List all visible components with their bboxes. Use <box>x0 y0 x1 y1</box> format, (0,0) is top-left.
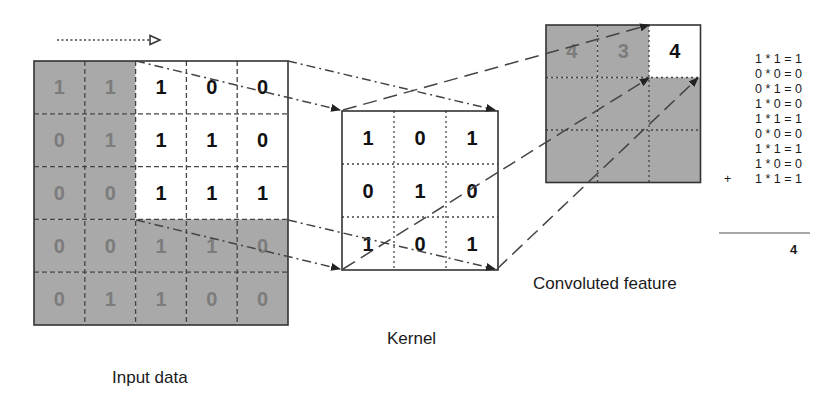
calculation-result: 4 <box>790 242 797 257</box>
calculation-line: 1 * 0 = 0 <box>738 97 802 112</box>
cell-value: 1 <box>105 76 116 98</box>
cell-value: 4 <box>669 40 681 62</box>
calculation-line: 1 * 1 = 1 <box>738 142 802 157</box>
cell-value: 0 <box>362 180 373 202</box>
cell-value: 1 <box>105 129 116 151</box>
cell-value: 4 <box>566 40 578 62</box>
cell-value: 0 <box>105 235 116 257</box>
input-grid: 1110001110001110011001100 <box>34 61 288 325</box>
cell-value: 0 <box>206 288 217 310</box>
cell-value: 1 <box>155 288 166 310</box>
grid-cell <box>649 130 701 183</box>
plus-operator: + <box>724 172 731 187</box>
cell-value: 1 <box>466 233 477 255</box>
kernel-label: Kernel <box>387 329 436 349</box>
cell-value: 3 <box>618 40 629 62</box>
calculation-line: 1 * 1 = 1+ <box>738 172 802 187</box>
calculation-line: 1 * 0 = 0 <box>738 157 802 172</box>
calculation-line: 0 * 0 = 0 <box>738 67 802 82</box>
output-grid: 434 <box>546 25 701 183</box>
cell-value: 1 <box>466 127 477 149</box>
cell-value: 1 <box>155 129 166 151</box>
cell-value: 0 <box>54 182 65 204</box>
grid-cell <box>598 78 650 131</box>
input-data-label: Input data <box>112 368 188 388</box>
cell-value: 0 <box>257 288 268 310</box>
grid-cell <box>649 78 701 131</box>
cell-value: 0 <box>54 235 65 257</box>
calculation-line: 0 * 1 = 0 <box>738 82 802 97</box>
cell-value: 0 <box>257 129 268 151</box>
cell-value: 0 <box>105 182 116 204</box>
cell-value: 1 <box>105 288 116 310</box>
cell-value: 0 <box>257 76 268 98</box>
grid-cell <box>546 78 598 131</box>
cell-value: 1 <box>206 129 217 151</box>
cell-value: 1 <box>414 180 425 202</box>
cell-value: 1 <box>257 182 268 204</box>
cell-value: 1 <box>206 182 217 204</box>
calculation-line: 1 * 1 = 1 <box>738 112 802 127</box>
convoluted-feature-label: Convoluted feature <box>533 274 677 294</box>
cell-value: 1 <box>155 235 166 257</box>
calculation-line: 0 * 0 = 0 <box>738 127 802 142</box>
cell-value: 1 <box>54 76 65 98</box>
stride-arrow-icon <box>57 36 160 45</box>
cell-value: 0 <box>54 129 65 151</box>
cell-value: 0 <box>414 127 425 149</box>
cell-value: 0 <box>54 288 65 310</box>
calculation-line: 1 * 1 = 1 <box>738 52 802 67</box>
cell-value: 0 <box>257 235 268 257</box>
kernel-grid: 101010101 <box>342 111 498 270</box>
cell-value: 1 <box>155 182 166 204</box>
cell-value: 1 <box>155 76 166 98</box>
grid-cell <box>598 130 650 183</box>
calculation-list: 1 * 1 = 10 * 0 = 00 * 1 = 01 * 0 = 01 * … <box>738 52 802 187</box>
cell-value: 1 <box>362 127 373 149</box>
grid-cell <box>546 130 598 183</box>
